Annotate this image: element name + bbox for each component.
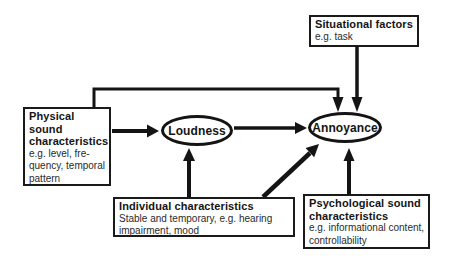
arrow-loudness-to-annoyance — [234, 122, 307, 134]
box-psychological-title-line: characteristics — [309, 210, 424, 223]
box-psychological-body-line: e.g. informational content, — [309, 222, 424, 235]
box-psychological-body-line: controllability — [309, 235, 424, 248]
box-situational-factors: Situational factors e.g. task — [309, 15, 419, 47]
node-loudness: Loudness — [161, 115, 233, 146]
arrow-individual-to-annoyance — [263, 144, 319, 197]
node-annoyance-label: Annoyance — [312, 121, 378, 135]
arrow-individual-to-loudness — [183, 148, 195, 197]
box-situational-title: Situational factors — [315, 18, 413, 31]
box-psychological-sound-characteristics: Psychological sound characteristics e.g.… — [303, 194, 430, 249]
box-physical-title-line: sound — [29, 123, 105, 136]
node-loudness-label: Loudness — [168, 124, 225, 138]
box-physical-sound-characteristics: Physical sound characteristics e.g. leve… — [23, 107, 111, 186]
arrow-physical-to-annoyance — [94, 89, 344, 112]
box-individual-body-line: Stable and temporary, e.g. hearing — [119, 213, 289, 226]
arrow-physical-to-loudness — [112, 125, 159, 138]
box-individual-characteristics: Individual characteristics Stable and te… — [113, 197, 295, 237]
box-individual-body-line: impairment, mood — [119, 225, 289, 238]
box-physical-body-line: pattern — [29, 173, 105, 186]
box-physical-body-line: e.g. level, fre- — [29, 148, 105, 161]
box-physical-title-line: characteristics — [29, 135, 105, 148]
diagram-canvas: Situational factors e.g. task Physical s… — [0, 0, 451, 259]
node-annoyance: Annoyance — [308, 112, 382, 143]
box-psychological-title-line: Psychological sound — [309, 197, 424, 210]
box-individual-title: Individual characteristics — [119, 200, 289, 213]
box-physical-body-line: quency, temporal — [29, 160, 105, 173]
box-physical-title-line: Physical — [29, 110, 105, 123]
arrow-situational-to-annoyance — [352, 47, 363, 112]
box-situational-body-line: e.g. task — [315, 31, 413, 44]
arrow-psychological-to-annoyance — [344, 148, 355, 194]
